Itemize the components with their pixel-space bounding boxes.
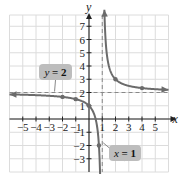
x-tick-label: 1 [100,121,106,133]
y-tick-label: 5 [80,47,86,59]
y-tick-label: 6 [80,34,86,46]
horizontal-asymptote-callout-leader [55,80,56,92]
y-tick-label: 2 [80,87,86,99]
data-point [113,77,117,81]
y-axis-label: y [85,0,92,14]
x-tick-label: −5 [17,121,29,133]
data-point [60,95,64,99]
vertical-asymptote-callout-label: x = 1 [113,147,136,159]
x-tick-label: −2 [57,121,69,133]
curve-arrow-icon [161,86,168,92]
y-tick-label: 4 [80,60,86,72]
x-tick-label: −3 [43,121,55,133]
y-tick-label: 1 [80,100,86,112]
callouts: y = 2x = 1 [39,64,141,161]
x-tick-label: −4 [30,121,42,133]
x-tick-label: 5 [153,121,159,133]
data-point [140,86,144,90]
x-axis-label: x [172,112,179,126]
y-tick-label: −1 [73,126,85,138]
graph: −5−4−3−2−112345−3−2−11234567xy y = 2x = … [0,0,179,174]
curve-arrow-icon [101,10,107,17]
horizontal-asymptote-callout-label: y = 2 [43,66,67,78]
y-tick-label: 7 [80,20,86,32]
callout-equation: = 1 [119,147,136,159]
y-tick-label: 3 [80,73,86,85]
callout-equation: = 2 [49,66,67,78]
data-point [97,143,101,147]
y-tick-label: −3 [73,153,85,165]
y-tick-label: −2 [73,140,85,152]
x-tick-label: 2 [113,121,119,133]
x-tick-label: 4 [139,121,145,133]
x-tick-label: 3 [126,121,132,133]
data-point [87,104,91,108]
data-point [74,97,78,101]
